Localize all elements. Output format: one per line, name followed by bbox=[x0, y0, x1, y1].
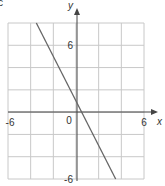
y-axis-label: y bbox=[67, 0, 74, 11]
part-label: c bbox=[0, 0, 3, 8]
y-tick-label: -6 bbox=[64, 174, 73, 185]
x-tick-label: 0 bbox=[66, 115, 72, 126]
x-axis-arrow-icon bbox=[151, 109, 158, 115]
x-axis-label: x bbox=[156, 116, 163, 127]
x-tick-label: 6 bbox=[141, 117, 147, 128]
chart: c -6066-6 x y bbox=[0, 0, 165, 186]
y-tick-label: 6 bbox=[67, 40, 73, 51]
x-tick-label: -6 bbox=[6, 117, 15, 128]
y-axis-arrow-icon bbox=[74, 8, 80, 15]
